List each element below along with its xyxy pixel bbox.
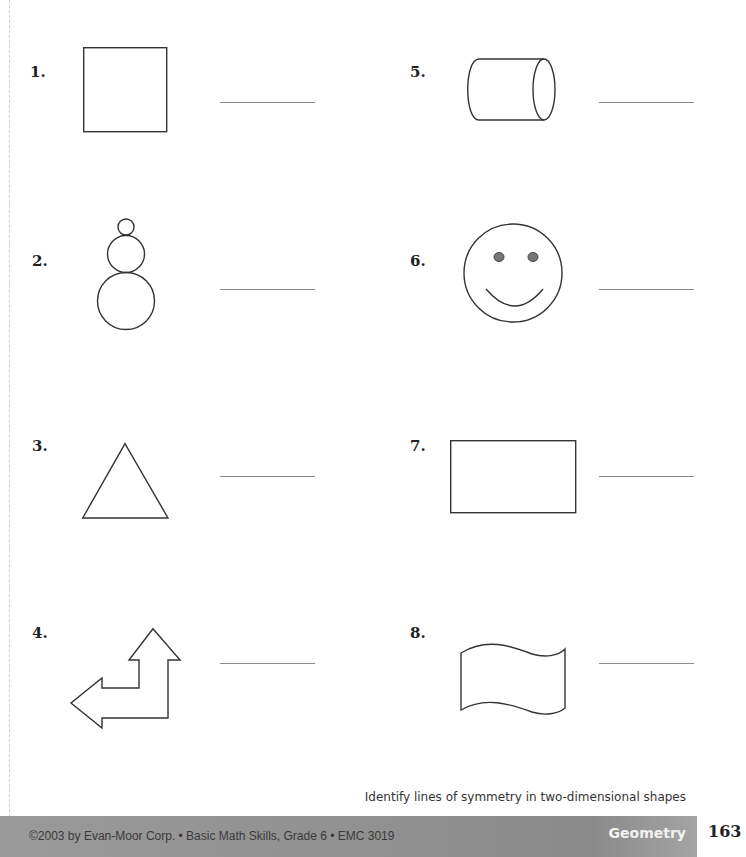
answer-line-8[interactable] bbox=[599, 663, 694, 664]
section-label: Geometry bbox=[609, 825, 686, 841]
flag-icon bbox=[460, 642, 568, 716]
answer-line-2[interactable] bbox=[220, 289, 315, 290]
item-number-2: 2. bbox=[32, 252, 48, 270]
skill-caption: Identify lines of symmetry in two-dimens… bbox=[0, 790, 686, 804]
item-number-3: 3. bbox=[32, 437, 48, 455]
binding-edge bbox=[9, 0, 10, 857]
triangle-icon bbox=[82, 443, 170, 521]
item-number-6: 6. bbox=[410, 252, 426, 270]
cylinder-icon bbox=[467, 58, 559, 122]
answer-line-3[interactable] bbox=[220, 476, 315, 477]
answer-line-7[interactable] bbox=[599, 476, 694, 477]
answer-line-5[interactable] bbox=[599, 102, 694, 103]
square-icon bbox=[83, 47, 169, 133]
answer-line-4[interactable] bbox=[220, 663, 315, 664]
page-number: 163 bbox=[708, 822, 741, 841]
smiley-face-icon bbox=[463, 223, 565, 325]
answer-line-6[interactable] bbox=[599, 289, 694, 290]
footer-bar: ©2003 by Evan-Moor Corp. • Basic Math Sk… bbox=[0, 816, 697, 857]
snowman-icon bbox=[96, 218, 158, 330]
copyright-text: ©2003 by Evan-Moor Corp. • Basic Math Sk… bbox=[29, 829, 394, 843]
item-number-1: 1. bbox=[30, 63, 46, 81]
item-number-8: 8. bbox=[410, 624, 426, 642]
answer-line-1[interactable] bbox=[220, 102, 315, 103]
item-number-5: 5. bbox=[410, 63, 426, 81]
bent-arrow-icon bbox=[70, 628, 182, 730]
item-number-4: 4. bbox=[32, 624, 48, 642]
rectangle-icon bbox=[450, 440, 578, 515]
item-number-7: 7. bbox=[410, 437, 426, 455]
